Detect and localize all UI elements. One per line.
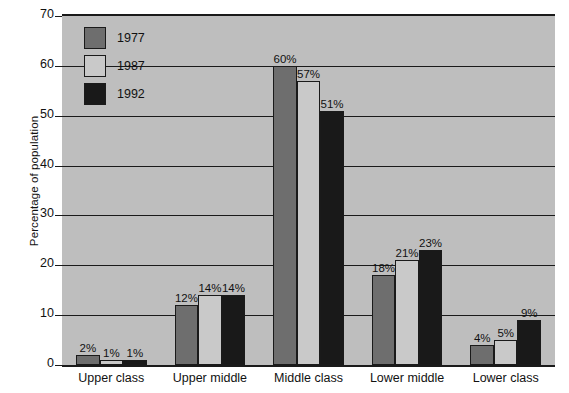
bar-value-label: 1% bbox=[126, 347, 143, 359]
bar-group: 18%21%23% bbox=[372, 16, 443, 365]
x-axis-tick-label: Upper middle bbox=[173, 371, 247, 385]
legend-label: 1987 bbox=[117, 59, 145, 73]
bar-value-label: 51% bbox=[320, 98, 343, 110]
bar-value-label: 12% bbox=[175, 292, 198, 304]
bar-value-label: 14% bbox=[198, 282, 221, 294]
x-axis-tick-label: Lower class bbox=[473, 371, 539, 385]
bar-value-label: 23% bbox=[419, 237, 442, 249]
bar-chart: Percentage of population 010203040506070… bbox=[0, 0, 569, 393]
y-axis-tick-label: 20 bbox=[14, 256, 54, 270]
y-axis-tick-mark bbox=[55, 16, 62, 17]
bar: 21% bbox=[395, 260, 419, 365]
bar-value-label: 21% bbox=[396, 247, 419, 259]
legend-swatch bbox=[84, 27, 106, 49]
legend-label: 1977 bbox=[117, 31, 145, 45]
x-axis-tick-label: Middle class bbox=[274, 371, 343, 385]
bar-value-label: 2% bbox=[79, 342, 96, 354]
x-axis-tick-label: Upper class bbox=[78, 371, 144, 385]
bar: 9% bbox=[517, 320, 541, 365]
y-axis-title: Percentage of population bbox=[28, 51, 40, 311]
bar: 18% bbox=[372, 275, 396, 365]
bar-value-label: 18% bbox=[372, 262, 395, 274]
chart-legend: 197719871992 bbox=[84, 24, 204, 108]
bar: 23% bbox=[419, 250, 443, 365]
bar: 60% bbox=[273, 66, 297, 365]
bar: 14% bbox=[222, 295, 246, 365]
y-axis-tick-label: 0 bbox=[14, 356, 54, 370]
y-axis-tick-label: 30 bbox=[14, 206, 54, 220]
bar-value-label: 60% bbox=[273, 53, 296, 65]
bar: 51% bbox=[320, 111, 344, 365]
legend-swatch bbox=[84, 83, 106, 105]
y-axis-tick-label: 60 bbox=[14, 57, 54, 71]
bar: 12% bbox=[175, 305, 199, 365]
legend-item: 1977 bbox=[84, 24, 204, 52]
y-axis-tick-mark bbox=[55, 265, 62, 266]
bar-value-label: 1% bbox=[103, 347, 120, 359]
y-axis-tick-label: 70 bbox=[14, 7, 54, 21]
y-axis-tick-mark bbox=[55, 116, 62, 117]
bar: 14% bbox=[198, 295, 222, 365]
y-axis-tick-mark bbox=[55, 166, 62, 167]
y-axis-tick-label: 40 bbox=[14, 157, 54, 171]
x-axis-tick-label: Lower middle bbox=[370, 371, 444, 385]
y-axis-tick-mark bbox=[55, 365, 62, 366]
y-axis-tick-label: 10 bbox=[14, 306, 54, 320]
legend-item: 1987 bbox=[84, 52, 204, 80]
bar: 1% bbox=[123, 360, 147, 365]
legend-item: 1992 bbox=[84, 80, 204, 108]
bar-value-label: 5% bbox=[497, 327, 514, 339]
bar: 2% bbox=[76, 355, 100, 365]
bar: 4% bbox=[470, 345, 494, 365]
bar: 1% bbox=[100, 360, 124, 365]
bar: 57% bbox=[297, 81, 321, 365]
y-axis-tick-label: 50 bbox=[14, 107, 54, 121]
plot-area: 2%1%1%12%14%14%60%57%51%18%21%23%4%5%9% … bbox=[62, 14, 555, 367]
bar-group: 4%5%9% bbox=[470, 16, 541, 365]
y-axis-tick-mark bbox=[55, 215, 62, 216]
y-axis-tick-mark bbox=[55, 66, 62, 67]
bar-value-label: 14% bbox=[222, 282, 245, 294]
bar: 5% bbox=[494, 340, 518, 365]
bar-group: 60%57%51% bbox=[273, 16, 344, 365]
legend-swatch bbox=[84, 55, 106, 77]
bar-value-label: 9% bbox=[521, 307, 538, 319]
legend-label: 1992 bbox=[117, 87, 145, 101]
bar-value-label: 4% bbox=[474, 332, 491, 344]
bar-value-label: 57% bbox=[297, 68, 320, 80]
y-axis-tick-mark bbox=[55, 315, 62, 316]
